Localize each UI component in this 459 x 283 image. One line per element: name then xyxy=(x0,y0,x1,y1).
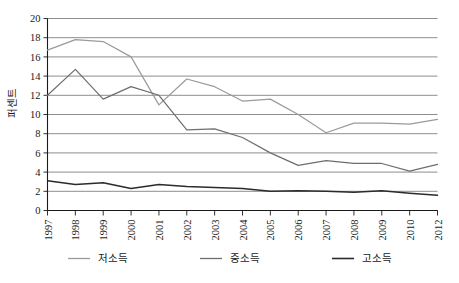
line-chart: 02468101214161820 1997199819992000200120… xyxy=(0,0,459,283)
x-tick-label: 1997 xyxy=(43,220,54,241)
y-axis-title-text: 퍼센트 xyxy=(7,88,18,118)
legend-label-1: 저소득 xyxy=(98,253,128,264)
x-tick-label: 2005 xyxy=(265,220,276,241)
x-tick-label: 2008 xyxy=(349,220,360,241)
y-tick-label: 6 xyxy=(35,148,40,159)
x-tick-label: 2007 xyxy=(321,220,332,241)
legend-label-2: 중소득 xyxy=(230,253,260,264)
x-axis-tick-labels: 1997199819992000200120022003200420052006… xyxy=(43,219,444,241)
x-tick-label: 2000 xyxy=(126,220,137,241)
y-tick-label: 20 xyxy=(30,13,41,24)
x-tick-label: 2002 xyxy=(182,220,193,241)
x-tick-label: 2004 xyxy=(238,219,249,241)
x-tick-label: 2003 xyxy=(210,220,221,241)
y-tick-label: 14 xyxy=(30,71,41,82)
x-tick-label: 2009 xyxy=(377,220,388,241)
y-tick-label: 12 xyxy=(30,90,41,101)
y-tick-label: 0 xyxy=(35,205,40,216)
x-tick-label: 2006 xyxy=(293,220,304,241)
x-tick-label: 2012 xyxy=(433,220,444,241)
x-tick-label: 2010 xyxy=(405,220,416,241)
chart-canvas: 02468101214161820 1997199819992000200120… xyxy=(0,0,459,283)
y-tick-label: 8 xyxy=(35,128,40,139)
y-tick-label: 10 xyxy=(30,109,41,120)
y-tick-label: 2 xyxy=(35,186,40,197)
x-tick-label: 2001 xyxy=(154,220,165,241)
legend-label-3: 고소득 xyxy=(362,253,392,264)
x-tick-label: 1998 xyxy=(70,220,81,241)
y-axis-title: 퍼센트 xyxy=(7,88,18,118)
x-tick-label: 1999 xyxy=(98,220,109,241)
y-tick-label: 4 xyxy=(35,167,41,178)
y-tick-label: 16 xyxy=(30,52,41,63)
y-tick-label: 18 xyxy=(30,32,41,43)
